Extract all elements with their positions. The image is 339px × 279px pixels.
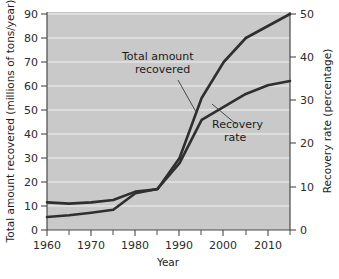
- x-tick-1990: 1990: [165, 239, 193, 252]
- y-left-tick-80: 80: [24, 32, 38, 45]
- y-left-tick-20: 20: [24, 176, 38, 189]
- y-right-tick-50: 50: [300, 8, 314, 21]
- x-axis-title: Year: [156, 256, 180, 268]
- y-right-tick-10: 10: [300, 181, 314, 194]
- x-tick-2000: 2000: [209, 239, 237, 252]
- y-right-tick-0: 0: [300, 224, 307, 237]
- annotation-rate-line1: Recovery: [212, 118, 263, 131]
- line-chart: 90 80 70 60 50 40 30 20 10 0 Total amoun…: [0, 0, 339, 279]
- x-tick-2010: 2010: [254, 239, 282, 252]
- y-left-tick-10: 10: [24, 200, 38, 213]
- y-axis-right-title: Recovery rate (percentage): [321, 49, 333, 194]
- x-tick-1970: 1970: [77, 239, 105, 252]
- y-axis-left-title: Total amount recovered (millions of tons…: [4, 0, 16, 243]
- y-axis-right: 50 40 30 20 10 0 Recovery rate (percenta…: [290, 8, 333, 237]
- y-right-tick-30: 30: [300, 94, 314, 107]
- y-axis-left: 90 80 70 60 50 40 30 20 10 0 Total amoun…: [4, 0, 47, 243]
- y-right-tick-20: 20: [300, 137, 314, 150]
- y-left-tick-0: 0: [31, 224, 38, 237]
- annotation-total-line1: Total amount: [121, 50, 194, 63]
- x-axis: 1960 1970 1980 1990 2000 2010 Year: [33, 230, 290, 268]
- figure-container: 90 80 70 60 50 40 30 20 10 0 Total amoun…: [0, 0, 339, 279]
- annotation-total-line2: recovered: [135, 63, 190, 76]
- y-left-tick-60: 60: [24, 80, 38, 93]
- x-tick-1960: 1960: [33, 239, 61, 252]
- y-left-tick-90: 90: [24, 8, 38, 21]
- y-left-tick-50: 50: [24, 104, 38, 117]
- annotation-rate-line2: rate: [224, 131, 247, 144]
- y-left-tick-30: 30: [24, 152, 38, 165]
- y-left-tick-70: 70: [24, 56, 38, 69]
- y-right-tick-40: 40: [300, 51, 314, 64]
- x-tick-1980: 1980: [121, 239, 149, 252]
- y-left-tick-40: 40: [24, 128, 38, 141]
